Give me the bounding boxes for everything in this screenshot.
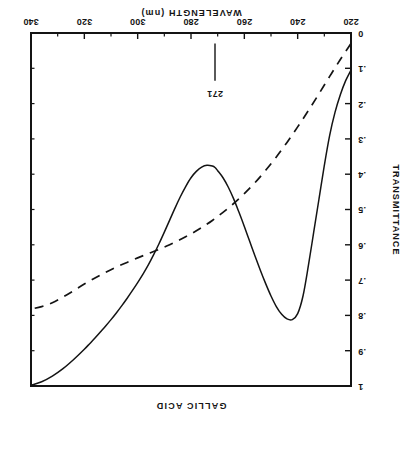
series-dashed-curve (31, 44, 351, 309)
peak-wavelength-annotation: 271 (207, 89, 223, 98)
y-tick-label: .6 (358, 240, 366, 249)
page-title: GALLIC ACID (156, 401, 227, 410)
x-tick-label: 300 (130, 17, 146, 26)
y-tick-label: .1 (358, 64, 366, 73)
rotated-figure-container: WAVELENGTH (nm) TRANSMITTANCE GALLIC ACI… (0, 0, 412, 463)
x-tick-label: 240 (290, 17, 306, 26)
y-tick-label: .5 (358, 205, 366, 214)
y-tick-label: .4 (358, 170, 366, 179)
y-tick-label: 0 (358, 29, 363, 38)
axes-frame (31, 33, 351, 386)
x-tick-label: 220 (343, 17, 359, 26)
y-tick-label: .3 (358, 134, 366, 143)
x-axis-title: WAVELENGTH (nm) (140, 8, 241, 17)
x-tick-label: 320 (77, 17, 93, 26)
y-tick-label: .7 (358, 276, 366, 285)
axis-ticks (31, 33, 351, 386)
y-tick-label: .2 (358, 99, 366, 108)
y-tick-label: .9 (358, 346, 366, 355)
chart-svg (0, 0, 412, 463)
y-tick-label: 1 (358, 382, 363, 391)
y-axis-title: TRANSMITTANCE (391, 164, 400, 255)
y-tick-label: .8 (358, 311, 366, 320)
data-curves (31, 44, 351, 386)
x-tick-label: 260 (237, 17, 253, 26)
x-tick-label: 340 (23, 17, 39, 26)
x-tick-label: 280 (183, 17, 199, 26)
